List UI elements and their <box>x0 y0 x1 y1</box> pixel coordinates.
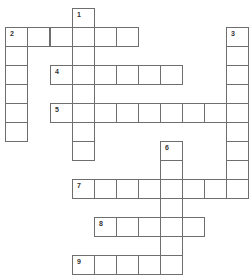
crossword-cell[interactable] <box>160 198 183 218</box>
crossword-cell[interactable] <box>160 103 183 123</box>
clue-number: 7 <box>77 182 81 189</box>
crossword-cell[interactable] <box>160 65 183 85</box>
crossword-cell[interactable] <box>138 65 161 85</box>
crossword-cell[interactable] <box>226 141 249 161</box>
crossword-cell[interactable]: 9 <box>72 255 95 275</box>
crossword-cell[interactable] <box>138 103 161 123</box>
crossword-cell[interactable]: 6 <box>160 141 183 161</box>
crossword-cell[interactable] <box>116 65 139 85</box>
crossword-cell[interactable] <box>204 179 227 199</box>
clue-number: 5 <box>55 106 59 113</box>
crossword-cell[interactable] <box>160 179 183 199</box>
crossword-cell[interactable] <box>138 179 161 199</box>
crossword-cell[interactable] <box>94 103 117 123</box>
crossword-cell[interactable] <box>5 103 28 123</box>
crossword-cell[interactable] <box>72 141 95 161</box>
crossword-cell[interactable] <box>72 103 95 123</box>
crossword-cell[interactable] <box>72 122 95 142</box>
crossword-cell[interactable]: 4 <box>50 65 73 85</box>
crossword-cell[interactable] <box>5 84 28 104</box>
crossword-cell[interactable] <box>5 46 28 66</box>
crossword-cell[interactable]: 7 <box>72 179 95 199</box>
clue-number: 1 <box>77 11 81 18</box>
crossword-cell[interactable] <box>72 46 95 66</box>
crossword-cell[interactable] <box>226 160 249 180</box>
crossword-cell[interactable]: 2 <box>5 27 28 47</box>
crossword-cell[interactable] <box>226 103 249 123</box>
crossword-cell[interactable]: 8 <box>94 217 117 237</box>
crossword-cell[interactable] <box>94 255 117 275</box>
crossword-cell[interactable] <box>226 179 249 199</box>
crossword-cell[interactable] <box>182 103 205 123</box>
crossword-cell[interactable] <box>116 217 139 237</box>
crossword-cell[interactable] <box>5 122 28 142</box>
crossword-cell[interactable] <box>160 217 183 237</box>
crossword-cell[interactable] <box>116 103 139 123</box>
crossword-cell[interactable] <box>138 255 161 275</box>
clue-number: 8 <box>99 220 103 227</box>
crossword-cell[interactable] <box>226 84 249 104</box>
clue-number: 6 <box>165 144 169 151</box>
crossword-cell[interactable] <box>182 179 205 199</box>
crossword-cell[interactable] <box>226 46 249 66</box>
crossword-grid: 123456789 <box>0 0 250 276</box>
crossword-cell[interactable]: 5 <box>50 103 73 123</box>
crossword-cell[interactable] <box>160 160 183 180</box>
crossword-cell[interactable] <box>138 217 161 237</box>
crossword-cell[interactable] <box>72 84 95 104</box>
crossword-cell[interactable] <box>94 65 117 85</box>
crossword-cell[interactable] <box>27 27 50 47</box>
crossword-cell[interactable] <box>226 65 249 85</box>
crossword-cell[interactable] <box>116 27 139 47</box>
clue-number: 2 <box>10 30 14 37</box>
crossword-cell[interactable] <box>5 65 28 85</box>
clue-number: 3 <box>231 30 235 37</box>
clue-number: 9 <box>77 258 81 265</box>
crossword-cell[interactable] <box>160 236 183 256</box>
crossword-cell[interactable] <box>94 27 117 47</box>
crossword-cell[interactable] <box>94 179 117 199</box>
crossword-cell[interactable] <box>72 27 95 47</box>
crossword-cell[interactable]: 3 <box>226 27 249 47</box>
crossword-cell[interactable] <box>72 65 95 85</box>
crossword-cell[interactable] <box>204 103 227 123</box>
crossword-cell[interactable] <box>226 122 249 142</box>
crossword-cell[interactable] <box>160 255 183 275</box>
crossword-cell[interactable] <box>116 179 139 199</box>
clue-number: 4 <box>55 68 59 75</box>
crossword-cell[interactable]: 1 <box>72 8 95 28</box>
crossword-cell[interactable] <box>50 27 73 47</box>
crossword-cell[interactable] <box>116 255 139 275</box>
crossword-cell[interactable] <box>182 217 205 237</box>
